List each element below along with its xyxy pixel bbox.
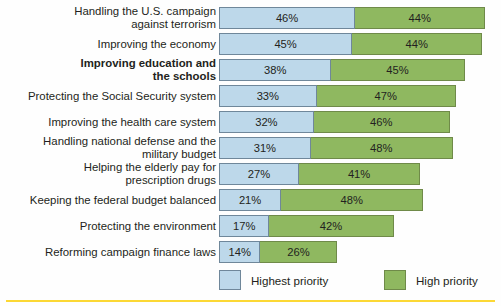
legend-label-high-priority: High priority [416, 274, 478, 287]
bar-segment-high-priority: 46% [314, 111, 450, 133]
row-label: Handling national defense and the milita… [6, 135, 216, 160]
bar-segment-high-priority: 48% [281, 189, 423, 211]
legend-item-highest-priority: Highest priority [219, 270, 328, 290]
stacked-bar: 17%42% [219, 215, 394, 237]
legend-item-high-priority: High priority [384, 270, 478, 290]
chart-row: Handling the U.S. campaign against terro… [0, 7, 501, 29]
bar-segment-highest-priority: 46% [219, 7, 355, 29]
bar-segment-highest-priority: 38% [219, 59, 331, 81]
legend-label-highest-priority: Highest priority [251, 274, 328, 287]
chart-rows: Handling the U.S. campaign against terro… [0, 7, 501, 267]
priority-stacked-bar-chart: Handling the U.S. campaign against terro… [0, 0, 501, 306]
chart-row: Handling national defense and the milita… [0, 137, 501, 159]
row-label: Improving education and the schools [6, 57, 216, 82]
chart-row: Improving education and the schools38%45… [0, 59, 501, 81]
stacked-bar: 31%48% [219, 137, 453, 159]
row-label: Improving the economy [6, 38, 216, 51]
stacked-bar: 38%45% [219, 59, 465, 81]
bar-segment-high-priority: 44% [352, 33, 482, 55]
chart-row: Improving the economy45%44% [0, 33, 501, 55]
row-label: Improving the health care system [6, 116, 216, 129]
row-label: Protecting the Social Security system [6, 90, 216, 103]
stacked-bar: 14%26% [219, 241, 337, 263]
bottom-rule-divider [6, 300, 495, 302]
stacked-bar: 33%47% [219, 85, 456, 107]
chart-row: Keeping the federal budget balanced21%48… [0, 189, 501, 211]
bar-segment-high-priority: 41% [299, 163, 420, 185]
chart-row: Protecting the Social Security system33%… [0, 85, 501, 107]
bar-segment-highest-priority: 45% [219, 33, 352, 55]
bar-segment-highest-priority: 32% [219, 111, 314, 133]
bar-segment-highest-priority: 14% [219, 241, 260, 263]
chart-row: Improving the health care system32%46% [0, 111, 501, 133]
bar-segment-high-priority: 48% [311, 137, 453, 159]
bar-segment-high-priority: 42% [269, 215, 393, 237]
chart-row: Helping the elderly pay for prescription… [0, 163, 501, 185]
stacked-bar: 32%46% [219, 111, 450, 133]
row-label: Reforming campaign finance laws [6, 246, 216, 259]
row-label: Handling the U.S. campaign against terro… [6, 5, 216, 30]
chart-row: Reforming campaign finance laws14%26% [0, 241, 501, 263]
bar-segment-highest-priority: 17% [219, 215, 269, 237]
stacked-bar: 21%48% [219, 189, 423, 211]
stacked-bar: 27%41% [219, 163, 420, 185]
stacked-bar: 45%44% [219, 33, 482, 55]
row-label: Protecting the environment [6, 220, 216, 233]
stacked-bar: 46%44% [219, 7, 485, 29]
legend-swatch-highest-priority [219, 270, 241, 290]
bar-segment-high-priority: 44% [355, 7, 485, 29]
bar-segment-high-priority: 26% [260, 241, 337, 263]
chart-row: Protecting the environment17%42% [0, 215, 501, 237]
bar-segment-highest-priority: 27% [219, 163, 299, 185]
bar-segment-highest-priority: 21% [219, 189, 281, 211]
bar-segment-high-priority: 45% [331, 59, 464, 81]
bar-segment-high-priority: 47% [317, 85, 456, 107]
row-label: Helping the elderly pay for prescription… [6, 161, 216, 186]
chart-legend: Highest priority High priority [0, 270, 501, 294]
bar-segment-highest-priority: 31% [219, 137, 311, 159]
row-label: Keeping the federal budget balanced [6, 194, 216, 207]
legend-swatch-high-priority [384, 270, 406, 290]
bar-segment-highest-priority: 33% [219, 85, 317, 107]
